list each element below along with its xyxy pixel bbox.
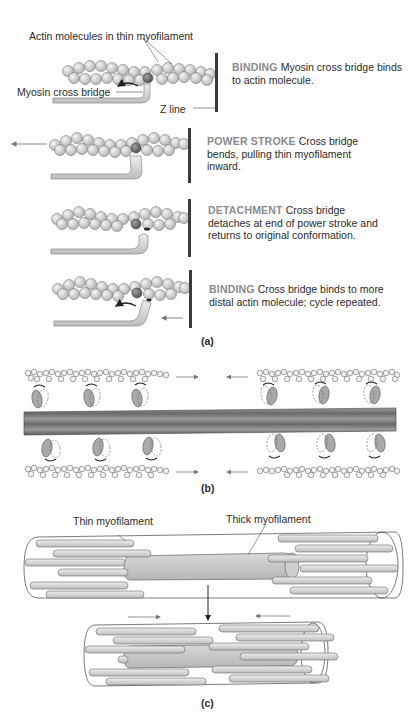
step-2-description: POWER STROKE Cross bridge bends, pulling… (207, 135, 387, 173)
step-3-heading: DETACHMENT (208, 204, 283, 216)
step-2-heading: POWER STROKE (207, 135, 296, 147)
actin-filament-4 (53, 270, 193, 328)
diagram-graphics (0, 0, 419, 714)
step-1-heading: BINDING (232, 61, 278, 73)
caption-b: (b) (201, 482, 214, 494)
actin-label: Actin molecules in thin myofilament (29, 30, 193, 42)
cross-bridge-label: Myosin cross bridge (17, 86, 110, 98)
actin-filament-3 (51, 199, 191, 257)
actin-filament-2 (12, 128, 191, 183)
caption-a: (a) (201, 335, 214, 347)
step-4-heading: BINDING (209, 283, 255, 295)
sliding-filament-panel-b (24, 369, 400, 478)
caption-c: (c) (201, 697, 214, 709)
actin-filament-1 (53, 38, 218, 112)
step-3-description: DETACHMENT Cross bridge detaches at end … (208, 204, 388, 242)
thin-myofilament-label: Thin myofilament (73, 515, 153, 527)
thick-myofilament-label: Thick myofilament (226, 513, 311, 525)
step-4-description: BINDING Cross bridge binds to more dista… (209, 283, 389, 308)
sarcomere-panel-c (24, 524, 403, 686)
z-line-label: Z line (160, 103, 186, 115)
step-1-description: BINDING Myosin cross bridge binds to act… (232, 61, 412, 86)
